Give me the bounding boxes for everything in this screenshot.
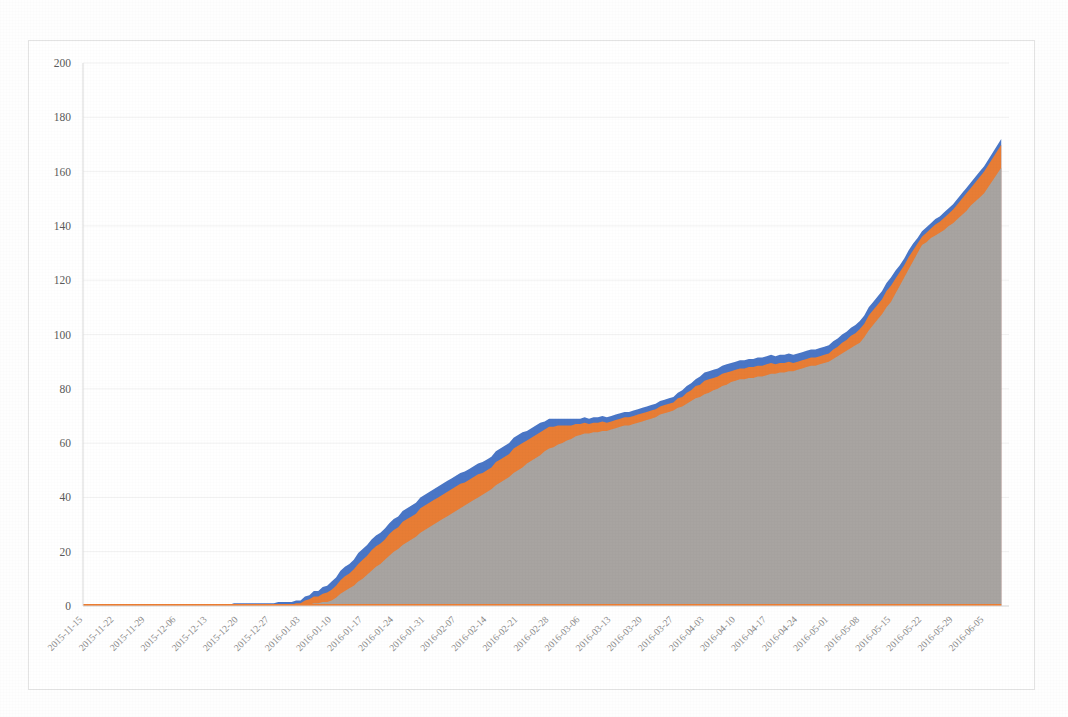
y-tick-label: 100 <box>54 329 72 341</box>
area-series-bottom-gray <box>83 168 1001 606</box>
y-tick-label: 20 <box>60 546 72 558</box>
y-axis-tick-labels: 020406080100120140160180200 <box>54 57 72 612</box>
y-tick-label: 120 <box>54 274 72 286</box>
y-tick-label: 40 <box>60 491 72 503</box>
chart-frame: 0204060801001201401601802002015-11-15201… <box>28 40 1035 690</box>
y-tick-label: 60 <box>60 437 72 449</box>
y-tick-label: 140 <box>54 220 72 232</box>
stacked-area-chart: 0204060801001201401601802002015-11-15201… <box>29 41 1036 691</box>
page-background: 0204060801001201401601802002015-11-15201… <box>0 0 1068 717</box>
y-tick-label: 0 <box>65 600 71 612</box>
y-tick-label: 80 <box>60 383 72 395</box>
y-tick-label: 160 <box>54 166 72 178</box>
y-tick-label: 200 <box>54 57 72 69</box>
x-axis-tick-labels: 2015-11-152015-11-222015-11-292015-12-06… <box>45 613 985 653</box>
y-tick-label: 180 <box>54 111 72 123</box>
chart-plot-area: 0204060801001201401601802002015-11-15201… <box>29 41 1036 691</box>
